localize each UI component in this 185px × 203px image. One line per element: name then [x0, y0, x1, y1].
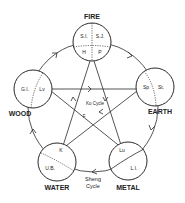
fire-organ-h: H: [82, 49, 86, 55]
sheng-arrow-metal-water: [92, 169, 97, 174]
fire-organ-si: S.I.: [80, 33, 88, 39]
earth-node: EARTH Sp St.: [136, 68, 174, 115]
earth-organ-st: St.: [158, 84, 164, 90]
ko-line-wood-metal: [51, 91, 122, 148]
sheng-cycle-label-line1: Sheng: [85, 176, 101, 182]
fire-label: FIRE: [84, 13, 100, 20]
sheng-cycle-label-line2: Cycle: [86, 183, 100, 189]
fire-node: FIRE S.I. S.J. H P: [73, 13, 111, 61]
water-node: WATER K U.B.: [38, 143, 76, 191]
five-elements-diagram: Ko Cycle F FIRE S.I. S.J. H P EARTH Sp S…: [0, 0, 185, 203]
ko-arrow-water-fire: [71, 97, 76, 101]
fire-organ-sj: S.J.: [96, 33, 105, 39]
wood-organ-gi: G.I.: [21, 86, 29, 92]
wood-circle: [14, 70, 52, 108]
earth-organ-sp: Sp: [143, 84, 149, 90]
ko-cycle-label: Ko Cycle: [86, 101, 105, 106]
ko-arrow-earth-water: [99, 109, 103, 114]
wood-node: WOOD G.I. Lv: [9, 70, 52, 117]
metal-circle: [109, 142, 147, 180]
metal-organ-li: L.I.: [131, 165, 138, 171]
earth-circle: [136, 68, 174, 106]
water-label: WATER: [45, 184, 70, 191]
water-organ-ub: U.B.: [45, 165, 55, 171]
ko-line-earth-water: [62, 91, 137, 149]
wood-label: WOOD: [9, 110, 32, 117]
metal-label: METAL: [116, 184, 140, 191]
earth-label: EARTH: [148, 108, 172, 115]
ko-marker: F: [83, 114, 86, 119]
wood-organ-lv: Lv: [39, 86, 45, 92]
water-circle: [38, 143, 76, 181]
metal-organ-lu: Lu: [119, 147, 125, 153]
metal-node: METAL Lu L.I.: [109, 142, 147, 191]
